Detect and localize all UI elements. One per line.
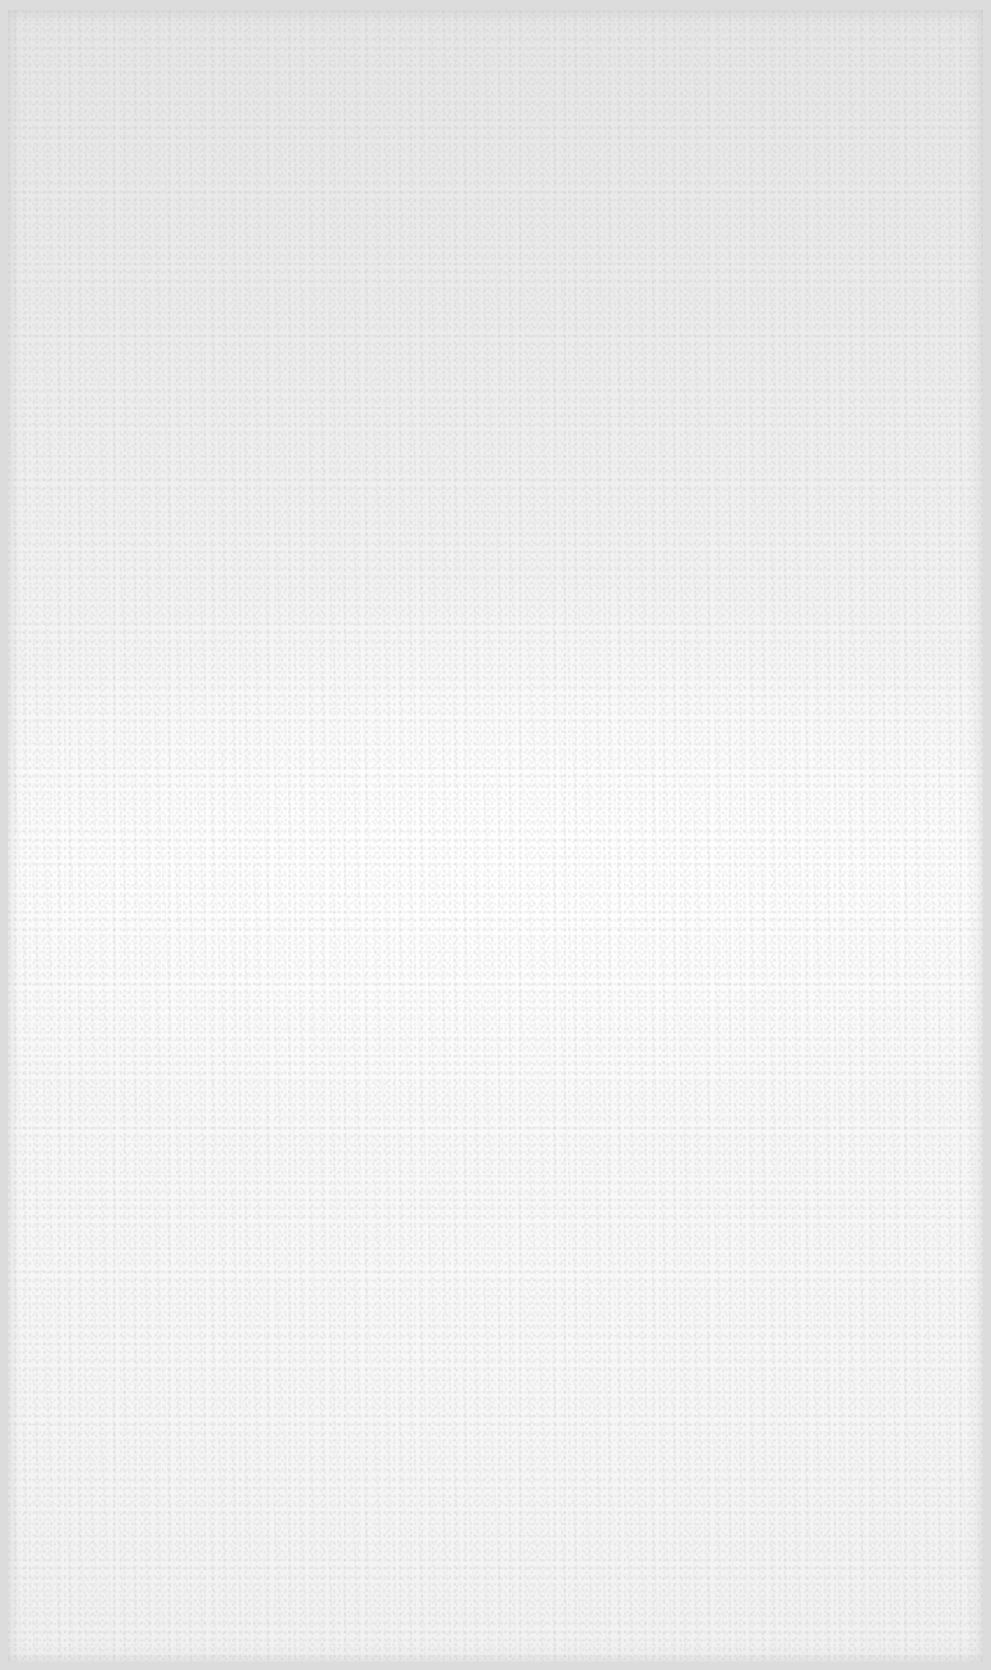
page-content	[8, 10, 983, 1662]
scan-frame	[0, 0, 991, 1670]
blank-paper-page	[8, 10, 983, 1662]
